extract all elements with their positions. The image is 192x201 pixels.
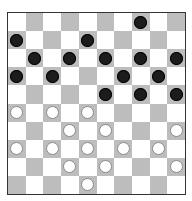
board-square-r2-c8[interactable] [150, 49, 168, 67]
board-square-r5-c9[interactable] [167, 104, 185, 122]
board-square-r5-c3[interactable] [61, 104, 79, 122]
white-piece-icon[interactable] [99, 160, 112, 173]
black-piece-icon[interactable] [63, 52, 76, 65]
board-square-r6-c2[interactable] [43, 122, 61, 140]
board-square-r8-c0[interactable] [8, 158, 26, 176]
white-piece-icon[interactable] [63, 160, 76, 173]
board-square-r4-c6[interactable] [114, 85, 132, 103]
white-piece-icon[interactable] [117, 142, 130, 155]
board-square-r1-c2[interactable] [43, 31, 61, 49]
board-square-r4-c2[interactable] [43, 85, 61, 103]
board-square-r6-c3[interactable] [61, 122, 79, 140]
board-square-r1-c5[interactable] [97, 31, 115, 49]
board-square-r7-c5[interactable] [97, 140, 115, 158]
black-piece-icon[interactable] [10, 70, 23, 83]
board-square-r8-c5[interactable] [97, 158, 115, 176]
board-square-r4-c0[interactable] [8, 85, 26, 103]
board-square-r2-c1[interactable] [26, 49, 44, 67]
white-piece-icon[interactable] [46, 142, 59, 155]
board-square-r0-c1[interactable] [26, 13, 44, 31]
white-piece-icon[interactable] [63, 124, 76, 137]
black-piece-icon[interactable] [134, 16, 147, 29]
board-square-r2-c6[interactable] [114, 49, 132, 67]
board-square-r0-c0[interactable] [8, 13, 26, 31]
board-square-r5-c4[interactable] [79, 104, 97, 122]
board-square-r8-c7[interactable] [132, 158, 150, 176]
board-square-r4-c5[interactable] [97, 85, 115, 103]
white-piece-icon[interactable] [46, 106, 59, 119]
white-piece-icon[interactable] [81, 178, 94, 191]
board-square-r2-c9[interactable] [167, 49, 185, 67]
board-square-r2-c5[interactable] [97, 49, 115, 67]
board-square-r9-c4[interactable] [79, 176, 97, 194]
board-square-r6-c9[interactable] [167, 122, 185, 140]
board-square-r2-c4[interactable] [79, 49, 97, 67]
board-square-r0-c7[interactable] [132, 13, 150, 31]
board-square-r9-c9[interactable] [167, 176, 185, 194]
board-square-r1-c3[interactable] [61, 31, 79, 49]
board-square-r9-c2[interactable] [43, 176, 61, 194]
board-square-r9-c7[interactable] [132, 176, 150, 194]
board-square-r1-c7[interactable] [132, 31, 150, 49]
board-square-r6-c6[interactable] [114, 122, 132, 140]
black-piece-icon[interactable] [10, 34, 23, 47]
board-square-r3-c5[interactable] [97, 67, 115, 85]
board-square-r2-c7[interactable] [132, 49, 150, 67]
board-square-r0-c8[interactable] [150, 13, 168, 31]
board-square-r3-c7[interactable] [132, 67, 150, 85]
board-square-r5-c1[interactable] [26, 104, 44, 122]
board-square-r4-c9[interactable] [167, 85, 185, 103]
board-square-r7-c9[interactable] [167, 140, 185, 158]
board-square-r5-c0[interactable] [8, 104, 26, 122]
board-square-r4-c7[interactable] [132, 85, 150, 103]
board-square-r7-c6[interactable] [114, 140, 132, 158]
board-square-r8-c2[interactable] [43, 158, 61, 176]
board-square-r3-c4[interactable] [79, 67, 97, 85]
board-square-r8-c8[interactable] [150, 158, 168, 176]
board-square-r2-c3[interactable] [61, 49, 79, 67]
black-piece-icon[interactable] [46, 70, 59, 83]
board-square-r7-c7[interactable] [132, 140, 150, 158]
white-piece-icon[interactable] [170, 124, 183, 137]
board-square-r7-c3[interactable] [61, 140, 79, 158]
black-piece-icon[interactable] [81, 34, 94, 47]
black-piece-icon[interactable] [134, 88, 147, 101]
board-square-r9-c8[interactable] [150, 176, 168, 194]
board-square-r4-c4[interactable] [79, 85, 97, 103]
board-square-r8-c1[interactable] [26, 158, 44, 176]
board-square-r7-c4[interactable] [79, 140, 97, 158]
board-square-r9-c3[interactable] [61, 176, 79, 194]
board-square-r0-c3[interactable] [61, 13, 79, 31]
board-square-r1-c8[interactable] [150, 31, 168, 49]
board-square-r6-c5[interactable] [97, 122, 115, 140]
black-piece-icon[interactable] [99, 52, 112, 65]
board-square-r5-c2[interactable] [43, 104, 61, 122]
board-square-r2-c0[interactable] [8, 49, 26, 67]
board-square-r7-c1[interactable] [26, 140, 44, 158]
board-square-r7-c2[interactable] [43, 140, 61, 158]
black-piece-icon[interactable] [117, 70, 130, 83]
board-square-r6-c0[interactable] [8, 122, 26, 140]
white-piece-icon[interactable] [170, 160, 183, 173]
board-square-r3-c9[interactable] [167, 67, 185, 85]
board-square-r1-c6[interactable] [114, 31, 132, 49]
white-piece-icon[interactable] [81, 142, 94, 155]
board-square-r4-c3[interactable] [61, 85, 79, 103]
board-square-r3-c1[interactable] [26, 67, 44, 85]
board-square-r5-c7[interactable] [132, 104, 150, 122]
board-square-r6-c1[interactable] [26, 122, 44, 140]
board-square-r2-c2[interactable] [43, 49, 61, 67]
board-square-r1-c0[interactable] [8, 31, 26, 49]
board-square-r3-c8[interactable] [150, 67, 168, 85]
board-square-r5-c8[interactable] [150, 104, 168, 122]
white-piece-icon[interactable] [152, 142, 165, 155]
board-square-r1-c4[interactable] [79, 31, 97, 49]
board-square-r0-c4[interactable] [79, 13, 97, 31]
black-piece-icon[interactable] [170, 52, 183, 65]
board-square-r4-c8[interactable] [150, 85, 168, 103]
board-square-r3-c3[interactable] [61, 67, 79, 85]
board-square-r0-c6[interactable] [114, 13, 132, 31]
board-square-r4-c1[interactable] [26, 85, 44, 103]
board-square-r8-c3[interactable] [61, 158, 79, 176]
board-square-r6-c7[interactable] [132, 122, 150, 140]
